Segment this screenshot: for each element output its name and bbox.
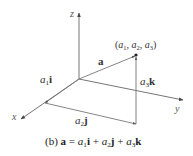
- vector-a3k-label: a3k: [140, 76, 155, 87]
- figure-caption: (b) a = a1i + a2j + a3k: [45, 136, 141, 147]
- vector-a2j: [45, 103, 136, 124]
- point-label: (a1, a2, a3): [115, 40, 156, 50]
- z-axis-label: z: [70, 9, 74, 19]
- vector-a2j-label: a2j: [75, 115, 88, 126]
- vector-a-label: a: [98, 56, 104, 67]
- vector-a: [79, 56, 135, 79]
- y-axis: [79, 79, 183, 100]
- x-axis-label: x: [12, 112, 16, 122]
- y-axis-label: y: [175, 104, 179, 114]
- point-a1-a2-a3: [134, 53, 137, 56]
- vector-a1i-label: a1i: [40, 74, 52, 85]
- vector-diagram: [0, 0, 193, 156]
